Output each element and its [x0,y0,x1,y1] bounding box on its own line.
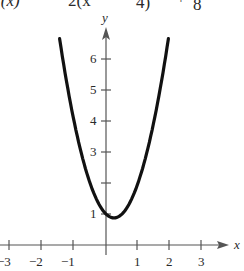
parabola-chart: f(x) 2(x 4) + 8 x y −3 −2 −1 1 2 3 [0,0,244,271]
equation-mid: 2(x [68,0,91,10]
x-tick-labels: −3 −2 −1 1 2 3 [0,254,205,269]
x-tick-label: 2 [166,254,173,269]
equation-header: f(x) 2(x 4) + 8 [0,0,202,14]
equation-fraction-denominator: 4) [136,0,150,12]
equation-constant-denominator: 8 [193,0,202,14]
x-axis-label: x [233,237,240,252]
x-tick-label: 1 [134,254,141,269]
x-tick-label: 3 [198,254,205,269]
y-tick-label: 4 [90,113,97,128]
axes [0,35,222,255]
y-tick-label: 3 [90,144,97,159]
x-tick-label: −3 [0,254,11,269]
x-tick-label: −2 [29,254,43,269]
parabola-curve [60,39,169,218]
y-axis-label: y [100,10,108,25]
x-tick-label: −1 [61,254,75,269]
y-tick-label: 5 [90,82,97,97]
y-tick-label: 1 [90,206,97,221]
y-tick-label: 6 [90,51,97,66]
equation-plus: + [177,0,185,6]
equation-left: f(x) [0,0,20,10]
